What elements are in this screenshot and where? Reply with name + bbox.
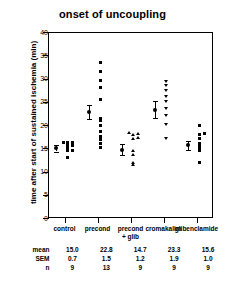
data-point	[164, 84, 168, 87]
data-point	[66, 144, 69, 147]
y-tick-label-35: 35	[14, 52, 48, 59]
x-tick-mark	[98, 218, 99, 223]
stats-cell: 15.6	[191, 245, 225, 254]
data-point	[164, 123, 168, 126]
data-point	[62, 141, 65, 144]
data-point	[136, 132, 140, 135]
data-point	[127, 131, 131, 134]
error-bar-cap-lower	[87, 119, 92, 120]
stats-cell: 1.9	[157, 254, 191, 263]
data-point	[164, 95, 168, 98]
data-point	[131, 137, 135, 140]
stats-cell: 1.2	[123, 254, 157, 263]
stats-row-label: SEM	[0, 254, 55, 263]
data-point	[164, 107, 168, 110]
data-point	[164, 100, 168, 103]
error-bar-cap-lower	[120, 155, 125, 156]
y-tick-label-15: 15	[14, 145, 48, 152]
error-bar-cap-lower	[54, 152, 59, 153]
x-tick-label-glibenclamide: glibenclamide	[173, 225, 221, 233]
data-point	[71, 144, 74, 147]
data-point	[164, 80, 168, 83]
stats-cell: 9	[123, 263, 157, 272]
stats-cell: 9	[191, 263, 225, 272]
data-point	[66, 147, 69, 150]
data-point	[131, 161, 135, 164]
mean-marker	[120, 148, 124, 152]
plot-area	[48, 32, 213, 218]
x-tick-mark	[197, 218, 198, 223]
y-tick-label-40: 40	[14, 29, 48, 36]
data-point	[66, 156, 69, 159]
x-tick-mark	[131, 218, 132, 223]
data-point	[198, 161, 201, 164]
stats-row-label: n	[0, 263, 55, 272]
data-point	[131, 149, 135, 152]
data-point	[99, 70, 102, 73]
stats-cell: 1.5	[89, 254, 123, 263]
data-point	[203, 132, 206, 135]
stats-cell: 23.3	[157, 245, 191, 254]
error-bar-cap-upper	[153, 101, 158, 102]
y-tick-label-30: 30	[14, 75, 48, 82]
mean-marker	[87, 110, 91, 114]
stats-table: mean15.022.814.723.315.6SEM0.71.51.21.91…	[0, 245, 225, 272]
y-tick-label-25: 25	[14, 98, 48, 105]
y-tick-label-0: 0	[14, 215, 48, 222]
data-point	[99, 117, 102, 120]
data-point	[99, 79, 102, 82]
data-point	[164, 114, 168, 117]
x-tick-mark	[65, 218, 66, 223]
data-point	[136, 136, 140, 139]
error-bar-cap-upper	[186, 141, 191, 142]
data-point	[99, 98, 102, 101]
data-point	[164, 89, 168, 92]
data-point	[99, 61, 102, 64]
error-bar-cap-lower	[153, 118, 158, 119]
stats-cell: 15.0	[55, 245, 89, 254]
y-axis-ticks: 0510152025303540	[0, 0, 48, 286]
x-tick-mark	[164, 218, 165, 223]
error-bar-cap-upper	[87, 105, 92, 106]
data-point	[198, 124, 201, 127]
mean-marker	[153, 108, 157, 112]
stats-table-row: n913999	[0, 263, 225, 272]
stats-cell: 22.8	[89, 245, 123, 254]
data-point	[198, 137, 201, 140]
data-point	[99, 142, 102, 145]
stats-table-body: mean15.022.814.723.315.6SEM0.71.51.21.91…	[0, 245, 225, 272]
stats-table-row: SEM0.71.51.21.91.0	[0, 254, 225, 263]
y-tick-label-5: 5	[14, 191, 48, 198]
data-point	[198, 133, 201, 136]
data-point	[99, 138, 102, 141]
data-point	[99, 86, 102, 89]
data-point	[99, 130, 102, 133]
data-point	[71, 141, 74, 144]
data-point	[66, 141, 69, 144]
stats-cell: 1.0	[191, 254, 225, 263]
error-bar-cap-lower	[186, 150, 191, 151]
figure-onset-of-uncoupling: onset of uncoupling time after start of …	[0, 0, 225, 286]
y-tick-label-20: 20	[14, 122, 48, 129]
data-point	[99, 124, 102, 127]
data-point	[164, 137, 168, 140]
data-point	[99, 135, 102, 138]
stats-cell: 13	[89, 263, 123, 272]
stats-row-label: mean	[0, 245, 55, 254]
stats-cell: 14.7	[123, 245, 157, 254]
data-point	[198, 142, 201, 145]
data-point	[131, 133, 135, 136]
stats-cell: 9	[55, 263, 89, 272]
error-bar-cap-upper	[120, 144, 125, 145]
stats-cell: 9	[157, 263, 191, 272]
data-point	[131, 153, 135, 156]
stats-table-row: mean15.022.814.723.315.6	[0, 245, 225, 254]
data-point	[99, 146, 102, 149]
data-point	[71, 149, 74, 152]
stats-cell: 0.7	[55, 254, 89, 263]
y-tick-label-10: 10	[14, 168, 48, 175]
